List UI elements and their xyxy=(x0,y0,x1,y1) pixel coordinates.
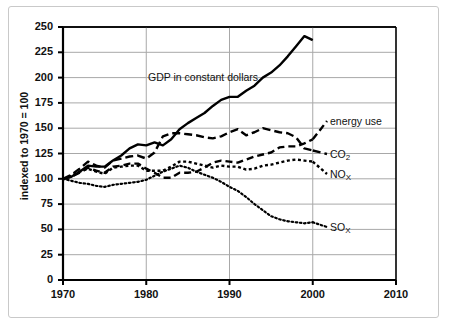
y-tick-label: 25 xyxy=(19,249,53,260)
y-tick-label: 75 xyxy=(19,198,53,209)
label-connector-sox xyxy=(313,222,327,227)
chart-figure: indexed to 1970 = 100 025507510012515017… xyxy=(0,0,449,330)
series-label-energy-use: energy use xyxy=(330,116,382,127)
y-tick-label: 100 xyxy=(19,173,53,184)
series-label-sox: SOX xyxy=(330,222,351,234)
sox-base: SO xyxy=(330,221,345,233)
sox-subscript: X xyxy=(345,226,350,235)
nox-subscript: X xyxy=(346,173,351,182)
y-tick-label: 200 xyxy=(19,72,53,83)
series-label-co2: CO2 xyxy=(330,149,350,161)
co2-subscript: 2 xyxy=(346,153,350,162)
y-tick-label: 0 xyxy=(19,274,53,285)
x-tick-label: 1980 xyxy=(116,289,176,300)
label-connector-energy-use xyxy=(313,121,327,139)
series-line-nox xyxy=(63,160,313,179)
x-tick-label: 2010 xyxy=(366,289,426,300)
nox-base: NO xyxy=(330,168,346,180)
y-tick-label: 50 xyxy=(19,223,53,234)
data-series-group xyxy=(63,36,327,227)
series-line-sox xyxy=(63,166,313,224)
y-tick-label: 225 xyxy=(19,46,53,57)
x-tick-label: 1990 xyxy=(200,289,260,300)
annotation-gdp: GDP in constant dollars xyxy=(148,72,258,83)
chart-plot-svg xyxy=(0,0,449,330)
label-connector-nox xyxy=(313,162,327,174)
y-tick-label: 250 xyxy=(19,21,53,32)
series-line-gdp-in-constant-dollars xyxy=(63,36,313,179)
y-tick-label: 150 xyxy=(19,122,53,133)
co2-base: CO xyxy=(330,148,346,160)
series-label-nox: NOX xyxy=(330,169,351,181)
y-tick-label: 175 xyxy=(19,97,53,108)
y-tick-label: 125 xyxy=(19,148,53,159)
x-tick-label: 1970 xyxy=(33,289,93,300)
x-tick-label: 2000 xyxy=(283,289,343,300)
